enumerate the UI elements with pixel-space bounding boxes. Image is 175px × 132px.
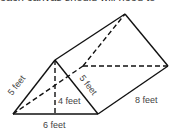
bottom-right-length-edge: [98, 66, 168, 114]
hidden-back-left-edge: [83, 14, 125, 66]
label-right-slant: 5 feet: [77, 73, 99, 97]
label-base: 6 feet: [43, 120, 66, 130]
label-height: 4 feet: [58, 96, 81, 106]
label-left-slant: 5 feet: [6, 73, 28, 97]
ridge-edge: [55, 14, 125, 60]
label-length: 8 feet: [135, 95, 158, 105]
triangular-prism-diagram: 5 feet 5 feet 4 feet 6 feet 8 feet: [0, 0, 175, 132]
back-right-edge: [125, 14, 168, 66]
hidden-bottom-left-length-edge: [13, 66, 83, 114]
